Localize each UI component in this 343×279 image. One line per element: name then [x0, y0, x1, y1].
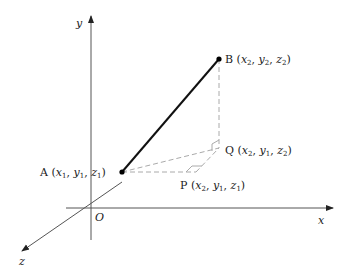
coordinate-diagram: y x z O B (x2, y2, z2) Q (x2, y1, z2) A …	[0, 0, 343, 279]
right-angle-marker-p	[186, 166, 202, 172]
y-axis-label: y	[75, 17, 83, 30]
segment-ab	[122, 59, 219, 172]
point-a	[119, 169, 124, 174]
z-axis	[22, 182, 122, 251]
point-b	[216, 56, 221, 61]
point-a-label: A (x1, y1, z1)	[39, 166, 106, 180]
point-b-label: B (x2, y2, z2)	[225, 53, 291, 67]
x-axis-label: x	[318, 214, 325, 227]
z-axis-label: z	[18, 255, 25, 268]
point-p-label: P (x2, y1, z1)	[180, 179, 245, 193]
point-q-label: Q (x2, y1, z2)	[225, 144, 292, 158]
origin-label: O	[95, 211, 104, 224]
